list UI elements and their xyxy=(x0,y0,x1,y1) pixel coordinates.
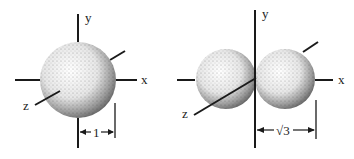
z-axis-back xyxy=(110,51,125,60)
arrow-left-icon xyxy=(80,129,86,135)
x-label: x xyxy=(338,72,345,87)
dimension-label: √3 xyxy=(276,123,290,138)
arrow-right-icon xyxy=(108,129,114,135)
z-label: z xyxy=(182,106,188,121)
arrow-left-icon xyxy=(257,127,264,133)
z-label: z xyxy=(23,98,29,113)
sphere-stipple xyxy=(40,42,116,118)
x-label: x xyxy=(141,72,148,87)
double-sphere-figure: y x z √3 xyxy=(177,6,345,148)
z-axis-back xyxy=(303,42,318,52)
y-label: y xyxy=(85,10,92,25)
diagram-canvas: y x z 1 y x z √3 xyxy=(0,0,354,159)
arrow-right-icon xyxy=(308,127,315,133)
single-sphere-figure: y x z 1 xyxy=(15,10,148,148)
right-lobe-stipple xyxy=(255,49,315,109)
y-label: y xyxy=(262,6,269,21)
left-lobe-stipple xyxy=(196,49,256,109)
dimension-label: 1 xyxy=(93,125,100,140)
